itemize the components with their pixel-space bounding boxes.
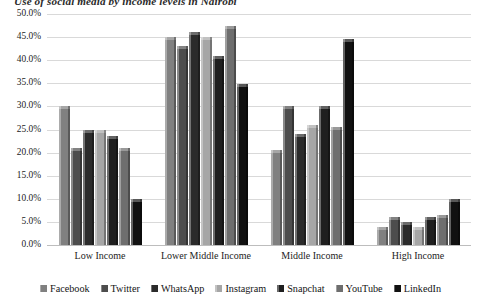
bar-slot xyxy=(449,14,460,245)
y-axis-tick-label: 40.0% xyxy=(17,55,41,64)
bar-whatsapp-low-income[interactable] xyxy=(83,130,94,246)
legend-item-youtube[interactable]: YouTube xyxy=(336,283,383,294)
bar-instagram-middle-income[interactable] xyxy=(307,125,318,245)
bar-group xyxy=(259,14,365,245)
bar-facebook-lower-middle-income[interactable] xyxy=(165,37,176,245)
bar-whatsapp-high-income[interactable] xyxy=(401,222,412,245)
x-axis-category-label: High Income xyxy=(365,249,471,265)
y-axis-tick-label: 50.0% xyxy=(17,9,41,18)
legend-item-facebook[interactable]: Facebook xyxy=(40,283,90,294)
bar-group xyxy=(153,14,259,245)
bar-twitter-middle-income[interactable] xyxy=(283,106,294,245)
bar-instagram-lower-middle-income[interactable] xyxy=(201,37,212,245)
bar-whatsapp-lower-middle-income[interactable] xyxy=(189,32,200,245)
bar-slot xyxy=(225,14,236,245)
legend-swatch-icon xyxy=(101,285,108,292)
bar-youtube-lower-middle-income[interactable] xyxy=(225,26,236,245)
bar-slot xyxy=(413,14,424,245)
y-axis-tick-label: 20.0% xyxy=(17,148,41,157)
bar-slot xyxy=(401,14,412,245)
legend-item-snapchat[interactable]: Snapchat xyxy=(277,283,324,294)
bar-instagram-high-income[interactable] xyxy=(413,227,424,245)
bar-youtube-middle-income[interactable] xyxy=(331,127,342,245)
bar-slot xyxy=(165,14,176,245)
legend-item-twitter[interactable]: Twitter xyxy=(101,283,140,294)
bar-slot xyxy=(377,14,388,245)
legend-swatch-icon xyxy=(336,285,343,292)
bar-slot xyxy=(95,14,106,245)
bar-top-cap xyxy=(189,32,200,35)
bar-linkedin-low-income[interactable] xyxy=(131,199,142,245)
x-axis-category-label: Low Income xyxy=(47,249,153,265)
bar-twitter-high-income[interactable] xyxy=(389,217,400,245)
bar-top-cap xyxy=(95,130,106,133)
bar-slot xyxy=(389,14,400,245)
bar-top-cap xyxy=(201,37,212,40)
y-axis-tick-label: 5.0% xyxy=(21,217,41,226)
bar-top-cap xyxy=(437,215,448,218)
x-axis-category-label: Middle Income xyxy=(259,249,365,265)
bar-facebook-high-income[interactable] xyxy=(377,227,388,245)
bar-slot xyxy=(107,14,118,245)
bar-slot xyxy=(307,14,318,245)
x-axis-category-label: Lower Middle Income xyxy=(153,249,259,265)
y-axis-tick-label: 30.0% xyxy=(17,102,41,111)
legend-label: Facebook xyxy=(50,283,90,294)
bar-snapchat-lower-middle-income[interactable] xyxy=(213,56,224,245)
bar-top-cap xyxy=(131,199,142,202)
bar-top-cap xyxy=(319,106,330,109)
y-axis: 50.0%45.0%40.0%35.0%30.0%25.0%20.0%15.0%… xyxy=(0,14,45,245)
legend-label: Twitter xyxy=(111,283,140,294)
legend-swatch-icon xyxy=(394,285,401,292)
y-axis-tick-label: 45.0% xyxy=(17,32,41,41)
bar-slot xyxy=(425,14,436,245)
bar-linkedin-high-income[interactable] xyxy=(449,199,460,245)
bar-slot xyxy=(237,14,248,245)
legend-label: LinkedIn xyxy=(404,283,441,294)
legend-label: Snapchat xyxy=(287,283,324,294)
bar-slot xyxy=(271,14,282,245)
legend-swatch-icon xyxy=(40,285,47,292)
bar-top-cap xyxy=(119,148,130,151)
bar-top-cap xyxy=(71,148,82,151)
bar-top-cap xyxy=(83,130,94,133)
legend-label: YouTube xyxy=(346,283,383,294)
bar-slot xyxy=(201,14,212,245)
bar-top-cap xyxy=(283,106,294,109)
bar-top-cap xyxy=(307,125,318,128)
bar-snapchat-low-income[interactable] xyxy=(107,136,118,245)
bar-instagram-low-income[interactable] xyxy=(95,130,106,245)
legend-item-instagram[interactable]: Instagram xyxy=(215,283,266,294)
bar-slot xyxy=(283,14,294,245)
y-axis-tick-label: 25.0% xyxy=(17,125,41,134)
bar-facebook-low-income[interactable] xyxy=(59,106,70,245)
bar-twitter-lower-middle-income[interactable] xyxy=(177,46,188,245)
bar-twitter-low-income[interactable] xyxy=(71,148,82,245)
bar-linkedin-lower-middle-income[interactable] xyxy=(237,84,248,245)
bar-slot xyxy=(295,14,306,245)
bar-snapchat-middle-income[interactable] xyxy=(319,106,330,245)
gridline xyxy=(47,245,471,246)
x-axis: Low IncomeLower Middle IncomeMiddle Inco… xyxy=(47,249,471,265)
bar-top-cap xyxy=(271,150,282,153)
bar-top-cap xyxy=(107,136,118,139)
bar-slot xyxy=(213,14,224,245)
bar-slot xyxy=(59,14,70,245)
y-axis-tick-label: 15.0% xyxy=(17,171,41,180)
bar-whatsapp-middle-income[interactable] xyxy=(295,134,306,245)
legend-swatch-icon xyxy=(215,285,222,292)
bar-chart: Use of social media by income levels in … xyxy=(0,0,481,302)
legend-item-linkedin[interactable]: LinkedIn xyxy=(394,283,441,294)
bar-snapchat-high-income[interactable] xyxy=(425,217,436,245)
bar-top-cap xyxy=(213,56,224,59)
legend-item-whatsapp[interactable]: WhatsApp xyxy=(151,283,205,294)
bar-youtube-low-income[interactable] xyxy=(119,148,130,245)
bar-groups xyxy=(47,14,471,245)
bar-linkedin-middle-income[interactable] xyxy=(343,39,354,245)
bar-slot xyxy=(83,14,94,245)
bar-top-cap xyxy=(377,227,388,230)
bar-top-cap xyxy=(237,84,248,87)
bar-facebook-middle-income[interactable] xyxy=(271,150,282,245)
plot-area xyxy=(47,14,471,245)
bar-youtube-high-income[interactable] xyxy=(437,215,448,245)
